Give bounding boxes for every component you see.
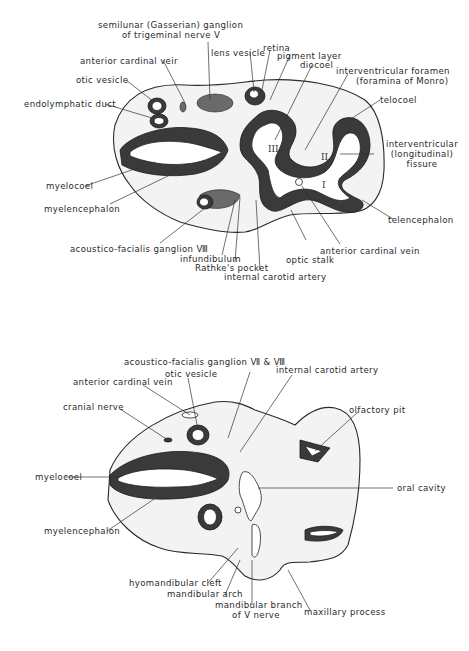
label-acoustico-facialis-lower: acoustico-facialis ganglion Ⅶ & Ⅷ xyxy=(124,357,285,367)
label-anterior-cardinal-vein-lower: anterior cardinal vein xyxy=(320,246,420,256)
label-myelocoel-upper: myelocoel xyxy=(46,181,93,191)
label-otic-vesicle-lower: otic vesicle xyxy=(165,369,217,379)
label-of-v-nerve: of Ⅴ nerve xyxy=(215,610,297,620)
label-maxillary-process: maxillary process xyxy=(304,607,385,617)
label-longitudinal: (longitudinal) xyxy=(383,149,461,159)
label-semilunar-ganglion: semilunar (Gasserian) ganglion xyxy=(98,20,243,30)
label-interventricular-foramen: interventricular foramen xyxy=(336,66,450,76)
label-myelencephalon-lower: myelencephalon xyxy=(44,526,120,536)
label-fissure: fissure xyxy=(383,159,461,169)
label-olfactory-pit: olfactory pit xyxy=(349,405,405,415)
label-lens-vesicle: lens vesicle xyxy=(211,48,265,58)
label-oral-cavity: oral cavity xyxy=(397,483,446,493)
label-otic-vesicle-upper: otic vesicle xyxy=(76,75,128,85)
label-semilunar-ganglion-line2: of trigeminal nerve Ⅴ xyxy=(122,30,220,40)
label-endolymphatic-duct: endolymphatic duct xyxy=(24,99,116,109)
label-telencephalon: telencephalon xyxy=(388,215,454,225)
label-myelocoel-lower: myelocoel xyxy=(35,472,82,482)
label-optic-stalk: optic stalk xyxy=(286,255,334,265)
ventricle-numeral-2: II xyxy=(321,152,329,162)
label-internal-carotid-artery-lower: internal carotid artery xyxy=(276,365,378,375)
upper-section-drawing: I II III xyxy=(113,80,384,233)
label-anterior-cardinal-vein: anterior cardinal vein xyxy=(73,377,173,387)
label-interventricular-fissure: interventricular xyxy=(383,139,461,149)
label-diocoel: diocoel xyxy=(300,60,333,70)
label-cranial-nerve: cranial nerve xyxy=(63,402,124,412)
label-foramina-of-monro: (foramina of Monro) xyxy=(356,76,448,86)
ventricle-numeral-1: I xyxy=(322,180,326,190)
ventricle-numeral-3: III xyxy=(268,144,279,154)
label-acoustico-facialis-upper: acoustico-facialis ganglion Ⅷ xyxy=(70,244,208,254)
label-telocoel: telocoel xyxy=(380,95,417,105)
label-myelencephalon-upper: myelencephalon xyxy=(44,204,120,214)
label-mandibular-branch: mandibular branch xyxy=(215,600,297,610)
label-internal-carotid-artery-upper: internal carotid artery xyxy=(224,272,326,282)
label-mandibular-arch: mandibular arch xyxy=(167,589,243,599)
label-hyomandibular-cleft: hyomandibular cleft xyxy=(129,578,222,588)
label-anterior-cardinal-vein-upper: anterior cardinal veir xyxy=(80,56,178,66)
